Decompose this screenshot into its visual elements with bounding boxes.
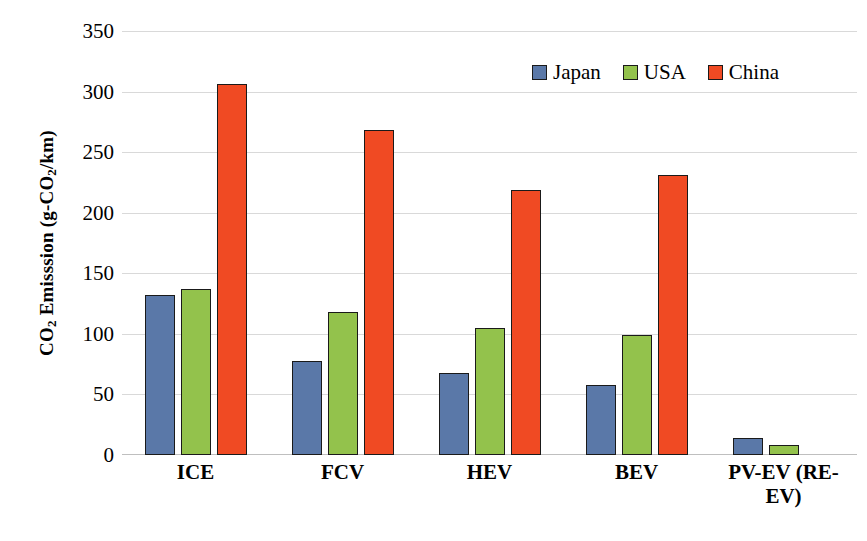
legend: JapanUSAChina — [532, 62, 779, 83]
bar-group — [710, 31, 857, 455]
y-axis-tick-label: 350 — [52, 21, 114, 42]
bar — [769, 445, 799, 455]
bar — [145, 295, 175, 455]
bar — [733, 438, 763, 455]
bar — [217, 84, 247, 455]
bar — [328, 312, 358, 455]
bar — [658, 175, 688, 455]
bar-group — [563, 31, 710, 455]
legend-label: USA — [644, 62, 686, 83]
bar-group — [416, 31, 563, 455]
legend-label: China — [729, 62, 779, 83]
legend-swatch-icon — [532, 65, 547, 80]
bar — [292, 361, 322, 455]
x-axis-category-label: FCV — [269, 461, 416, 508]
x-axis-category-label: HEV — [416, 461, 563, 508]
y-axis-tick-label: 150 — [52, 263, 114, 284]
y-axis-tick-label: 300 — [52, 81, 114, 102]
y-axis-tick-label: 0 — [52, 445, 114, 466]
bar — [622, 335, 652, 455]
bar — [586, 385, 616, 455]
legend-item: China — [708, 62, 779, 83]
plot-area — [122, 31, 857, 455]
bar — [181, 289, 211, 455]
bar-group — [269, 31, 416, 455]
x-axis-category-label: BEV — [563, 461, 710, 508]
bar-group — [122, 31, 269, 455]
bar — [364, 130, 394, 455]
legend-item: USA — [623, 62, 686, 83]
y-axis-tick-labels: 350300250200150100500 — [52, 31, 114, 455]
y-axis-tick-label: 250 — [52, 142, 114, 163]
legend-swatch-icon — [708, 65, 723, 80]
legend-label: Japan — [553, 62, 601, 83]
x-axis-category-label: ICE — [122, 461, 269, 508]
bar — [511, 190, 541, 455]
legend-swatch-icon — [623, 65, 638, 80]
legend-item: Japan — [532, 62, 601, 83]
x-axis-category-label: PV-EV (RE-EV) — [710, 461, 857, 508]
y-axis-tick-label: 100 — [52, 323, 114, 344]
chart-figure: CO2 Emisssion (g-CO2/km) 350300250200150… — [0, 0, 867, 541]
bar-groups — [122, 31, 857, 455]
y-axis-tick-label: 50 — [52, 384, 114, 405]
y-axis-tick-label: 200 — [52, 202, 114, 223]
bar — [475, 328, 505, 455]
x-axis-category-labels: ICEFCVHEVBEVPV-EV (RE-EV) — [122, 461, 857, 508]
caption-remnant — [8, 524, 568, 537]
bar — [439, 373, 469, 455]
